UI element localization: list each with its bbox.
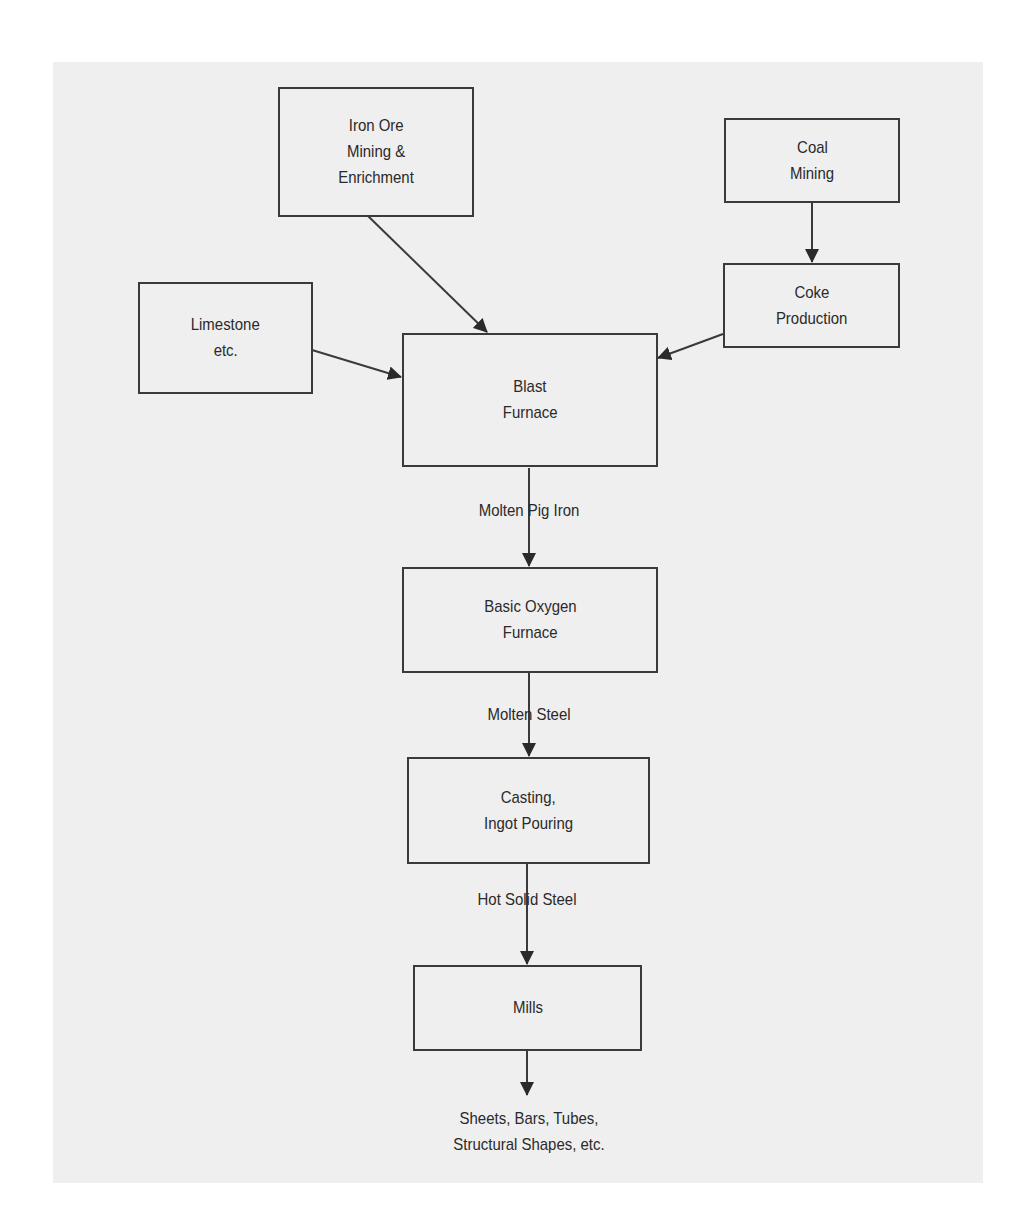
node-label: Furnace	[503, 400, 558, 426]
node-label: Basic Oxygen	[484, 594, 576, 620]
node-label: Coal	[797, 135, 828, 161]
node-label: Furnace	[503, 620, 558, 646]
edge-label-molten-steel: Molten Steel	[487, 704, 570, 726]
edge-label-molten-pig-iron: Molten Pig Iron	[479, 500, 580, 522]
node-label: Production	[776, 306, 848, 332]
node-label: Enrichment	[338, 165, 414, 191]
node-label: Mills	[513, 995, 543, 1021]
node-mills: Mills	[413, 965, 642, 1051]
node-casting-ingot-pouring: Casting, Ingot Pouring	[407, 757, 650, 864]
output-products: Sheets, Bars, Tubes, Structural Shapes, …	[443, 1106, 615, 1158]
node-coal-mining: Coal Mining	[724, 118, 900, 203]
node-label: Mining	[790, 161, 834, 187]
node-label: Limestone	[191, 312, 260, 338]
edge-label-hot-solid-steel: Hot Solid Steel	[478, 889, 577, 911]
output-line: Structural Shapes, etc.	[453, 1132, 604, 1158]
node-iron-ore-mining: Iron Ore Mining & Enrichment	[278, 87, 474, 217]
node-label: Blast	[513, 374, 546, 400]
node-label: Iron Ore	[349, 113, 404, 139]
node-label: etc.	[213, 338, 237, 364]
node-coke-production: Coke Production	[723, 263, 900, 348]
node-label: Ingot Pouring	[484, 811, 573, 837]
node-limestone: Limestone etc.	[138, 282, 313, 394]
node-label: Mining &	[347, 139, 405, 165]
node-label: Casting,	[501, 785, 556, 811]
output-line: Sheets, Bars, Tubes,	[453, 1106, 604, 1132]
node-basic-oxygen-furnace: Basic Oxygen Furnace	[402, 567, 658, 673]
node-blast-furnace: Blast Furnace	[402, 333, 658, 467]
node-label: Coke	[794, 280, 829, 306]
